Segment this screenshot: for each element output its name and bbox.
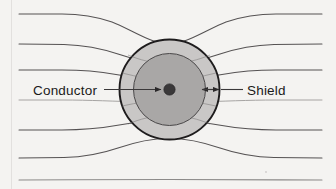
field-diagram-svg: Conductor Shield bbox=[0, 0, 336, 189]
conductor-core-dot bbox=[164, 84, 175, 95]
scan-speck bbox=[265, 171, 267, 173]
conductor-label: Conductor bbox=[33, 83, 97, 98]
shield-label: Shield bbox=[247, 83, 286, 98]
field-line-7 bbox=[19, 179, 322, 180]
figure-canvas: Conductor Shield bbox=[0, 0, 336, 189]
